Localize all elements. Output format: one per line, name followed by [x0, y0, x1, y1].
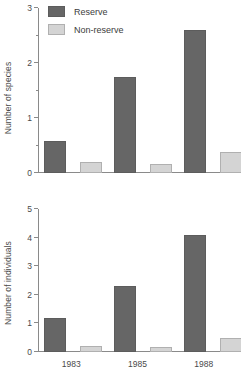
figure-caption: [4, 380, 237, 388]
x-axis-tick-labels: 198319851988: [38, 359, 237, 369]
bar-species-non-reserve-1988: [220, 152, 241, 173]
x-tick-label-1985: 1985: [104, 359, 170, 369]
y-tick-label-individuals-4: 4: [27, 233, 32, 243]
bar-group-individuals-1988: [178, 209, 241, 352]
bar-individuals-non-reserve-1988: [220, 338, 241, 352]
y-tick-label-individuals-0: 0: [27, 347, 32, 357]
bar-species-reserve-1985: [114, 77, 136, 173]
bar-individuals-non-reserve-1983: [80, 346, 102, 352]
bar-group-individuals-1985: [108, 209, 178, 352]
panel-number-of-individuals: Number of individuals 012345: [0, 195, 241, 370]
y-axis-title-individuals: Number of individuals: [0, 195, 18, 370]
bar-group-individuals-1983: [38, 209, 108, 352]
legend-item-reserve[interactable]: Reserve: [48, 6, 124, 17]
bar-species-non-reserve-1983: [80, 162, 102, 173]
legend-label-reserve: Reserve: [74, 7, 108, 17]
x-tick-label-1983: 1983: [38, 359, 104, 369]
plot-area-individuals: 012345: [38, 209, 237, 352]
bar-individuals-reserve-1988: [184, 235, 206, 352]
bar-individuals-non-reserve-1985: [150, 347, 172, 352]
legend-label-non-reserve: Non-reserve: [74, 25, 124, 35]
y-axis-title-species: Number of species: [0, 0, 18, 195]
x-tick-label-1988: 1988: [171, 359, 237, 369]
bar-individuals-reserve-1985: [114, 286, 136, 352]
y-tick-label-individuals-2: 2: [27, 290, 32, 300]
bar-species-non-reserve-1985: [150, 164, 172, 173]
figure-two-panel-bar-chart: Number of species 0123 Reserve Non-reser…: [0, 0, 241, 390]
y-tick-label-individuals-3: 3: [27, 261, 32, 271]
legend-swatch-non-reserve: [48, 24, 65, 35]
legend-swatch-reserve: [48, 6, 65, 17]
bar-group-species-1988: [178, 8, 241, 173]
panel-number-of-species: Number of species 0123 Reserve Non-reser…: [0, 0, 241, 195]
bar-groups-individuals: [38, 209, 237, 352]
y-tick-label-individuals-5: 5: [27, 204, 32, 214]
y-tick-label-species-1: 1: [27, 113, 32, 123]
y-tick-label-species-3: 3: [27, 3, 32, 13]
y-tick-label-individuals-1: 1: [27, 318, 32, 328]
bar-species-reserve-1983: [44, 141, 66, 173]
y-tick-label-species-0: 0: [27, 168, 32, 178]
legend: Reserve Non-reserve: [48, 6, 124, 42]
bar-individuals-reserve-1983: [44, 318, 66, 352]
y-tick-label-species-2: 2: [27, 58, 32, 68]
bar-species-reserve-1988: [184, 30, 206, 173]
legend-item-non-reserve[interactable]: Non-reserve: [48, 24, 124, 35]
